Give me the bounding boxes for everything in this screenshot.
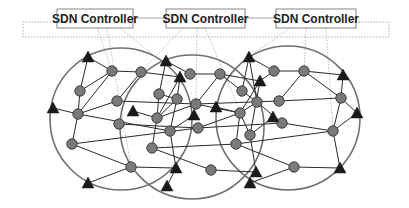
switch-node xyxy=(252,97,262,107)
controller-label: SDN Controller xyxy=(162,12,248,26)
triangle-node xyxy=(82,51,94,62)
switch-node xyxy=(126,162,136,172)
switch-node xyxy=(136,67,146,77)
switch-node xyxy=(235,108,245,118)
switch-node xyxy=(67,139,77,149)
controller-3: SDN Controller xyxy=(273,9,359,28)
triangle-node xyxy=(244,177,256,188)
switch-node xyxy=(172,94,182,104)
switch-node xyxy=(274,96,284,106)
switch-node xyxy=(112,96,122,106)
switch-node xyxy=(245,130,255,140)
triangle-node xyxy=(188,109,200,120)
controller-label: SDN Controller xyxy=(273,12,359,26)
triangle-node xyxy=(161,180,173,191)
switch-node xyxy=(193,123,203,133)
triangle-node xyxy=(243,51,255,62)
switch-node xyxy=(73,109,83,119)
sdn-network-diagram: SDN Controller SDN Controller SDN Contro… xyxy=(0,0,409,208)
controller-label: SDN Controller xyxy=(52,12,138,26)
switch-node xyxy=(215,69,225,79)
switch-node xyxy=(277,118,287,128)
domain-circles xyxy=(50,46,360,199)
switch-node xyxy=(336,93,346,103)
triangle-node xyxy=(127,105,139,116)
triangle-node xyxy=(267,111,279,122)
switch-node xyxy=(269,66,279,76)
triangle-node xyxy=(47,102,59,113)
switch-node xyxy=(75,86,85,96)
switch-node xyxy=(114,119,124,129)
switch-node xyxy=(107,66,117,76)
switch-node xyxy=(289,162,299,172)
switch-node xyxy=(191,99,201,109)
switch-node xyxy=(147,143,157,153)
data-links xyxy=(53,57,357,186)
switch-node xyxy=(231,139,241,149)
switch-node xyxy=(237,86,247,96)
switch-node xyxy=(185,69,195,79)
switch-node xyxy=(328,126,338,136)
switch-node xyxy=(206,165,216,175)
switch-node xyxy=(154,89,164,99)
controller-2: SDN Controller xyxy=(162,9,248,28)
controller-1: SDN Controller xyxy=(52,9,138,28)
switch-node xyxy=(165,126,175,136)
switch-node xyxy=(299,66,309,76)
switch-node xyxy=(152,113,162,123)
